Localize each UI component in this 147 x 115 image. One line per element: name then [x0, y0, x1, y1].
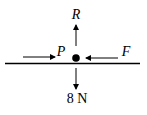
free-body-diagram: R P F 8 N: [0, 0, 147, 115]
force-p-label: P: [56, 44, 66, 59]
particle-dot: [72, 54, 80, 62]
force-weight-label: 8 N: [67, 91, 88, 106]
force-r-label: R: [71, 7, 81, 22]
force-f-label: F: [121, 44, 131, 59]
